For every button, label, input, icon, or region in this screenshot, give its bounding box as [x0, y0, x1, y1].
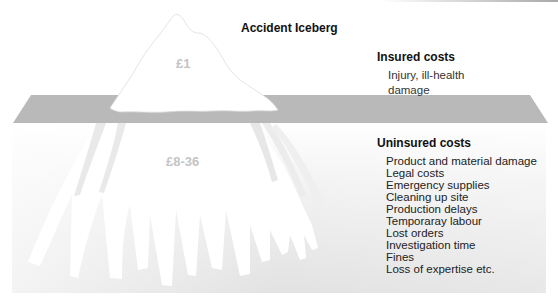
accident-iceberg-diagram: £1 £8-36 Accident Iceberg Insured costs … [0, 0, 558, 302]
uninsured-costs-list: Product and material damage Legal costs … [386, 155, 537, 275]
uninsured-cost-amount: £8-36 [166, 154, 199, 169]
list-item: Production delays [386, 203, 537, 215]
list-item: Temporaray labour [386, 215, 537, 227]
list-item: Investigation time [386, 239, 537, 251]
list-item: Cleaning up site [386, 191, 537, 203]
insured-costs-heading: Insured costs [377, 50, 455, 64]
list-item: Lost orders [386, 227, 537, 239]
insured-costs-description: Injury, ill-health damage [388, 68, 488, 97]
list-item: Legal costs [386, 167, 537, 179]
list-item: Fines [386, 251, 537, 263]
uninsured-costs-heading: Uninsured costs [377, 136, 471, 150]
list-item: Emergency supplies [386, 179, 537, 191]
insured-cost-amount: £1 [176, 56, 190, 71]
list-item: Loss of expertise etc. [386, 263, 537, 275]
list-item: Product and material damage [386, 155, 537, 167]
water-surface-band [13, 95, 548, 123]
diagram-title: Accident Iceberg [241, 21, 338, 35]
